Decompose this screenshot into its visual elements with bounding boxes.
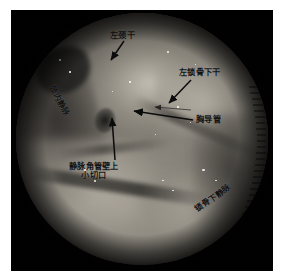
specular-highlight	[84, 169, 86, 171]
specular-highlight	[177, 106, 178, 107]
screenshot-root: 左颈干 左锁骨下干 胸导管 颈内静脉 静脉角管壁上 小切口 锁骨下静脉	[0, 0, 286, 280]
tissue-shading-right	[192, 114, 268, 260]
specular-highlight	[69, 71, 71, 73]
specular-highlight	[162, 180, 164, 182]
specular-highlight	[172, 190, 173, 191]
specular-highlight	[59, 59, 61, 61]
photo-frame: 左颈干 左锁骨下干 胸导管 颈内静脉 静脉角管壁上 小切口 锁骨下静脉	[11, 10, 273, 271]
endoscope-circular-field	[16, 13, 268, 265]
specular-highlight	[167, 51, 169, 53]
